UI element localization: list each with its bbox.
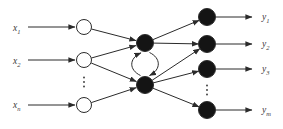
arrow-hidden1-to-output1 bbox=[153, 20, 199, 39]
label-ym: ym bbox=[261, 105, 271, 117]
output-ellipsis-dot-1 bbox=[206, 85, 208, 87]
label-y1: y1 bbox=[261, 12, 269, 24]
arrow-hidden2-to-outputm bbox=[153, 88, 199, 107]
edges-layer bbox=[28, 17, 252, 110]
input-node-1 bbox=[77, 20, 92, 35]
label-y3: y3 bbox=[261, 64, 270, 76]
recurrent-loop-layer bbox=[132, 53, 159, 76]
arrow-inputn-to-hidden2 bbox=[91, 88, 136, 103]
output-node-1 bbox=[199, 9, 216, 26]
label-y2: y2 bbox=[261, 39, 270, 51]
arrow-hidden2-to-output2 bbox=[152, 49, 200, 81]
label-x1: x1 bbox=[12, 23, 20, 35]
arrow-input2-to-hidden1 bbox=[91, 46, 136, 59]
arrow-hidden1-to-output2 bbox=[154, 43, 199, 44]
output-node-3 bbox=[199, 61, 216, 78]
label-x2: x2 bbox=[12, 56, 21, 68]
input-ellipsis-dot-1 bbox=[83, 77, 85, 79]
recurrent-arc-up bbox=[132, 53, 141, 76]
hidden-node-1 bbox=[137, 35, 154, 52]
input-ellipsis-dot-3 bbox=[83, 86, 85, 88]
nodes-layer bbox=[77, 9, 216, 119]
arrow-input1-to-hidden1 bbox=[91, 29, 136, 41]
diagram-svg: x1x2xny1y2y3ym bbox=[0, 0, 283, 129]
recurrent-arc-down bbox=[150, 53, 159, 76]
input-node-2 bbox=[77, 53, 92, 68]
arrow-input2-to-hidden2 bbox=[91, 63, 136, 82]
hidden-node-2 bbox=[137, 77, 154, 94]
output-ellipsis-dot-2 bbox=[206, 89, 208, 91]
output-ellipsis-dot-3 bbox=[206, 94, 208, 96]
labels-layer: x1x2xny1y2y3ym bbox=[12, 12, 271, 117]
output-node-2 bbox=[199, 36, 216, 53]
label-xn: xn bbox=[12, 100, 20, 112]
input-node-n bbox=[77, 98, 92, 113]
arrow-hidden2-to-output3 bbox=[153, 71, 199, 83]
input-ellipsis-dot-2 bbox=[83, 81, 85, 83]
neural-network-diagram: x1x2xny1y2y3ym bbox=[0, 0, 283, 129]
output-node-m bbox=[199, 102, 216, 119]
